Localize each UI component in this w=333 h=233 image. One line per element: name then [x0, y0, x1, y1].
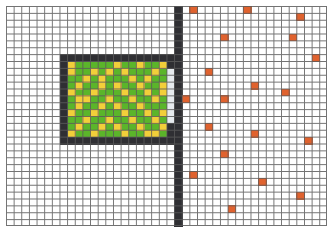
food-item [251, 82, 260, 90]
food-item [289, 34, 298, 42]
food-item [182, 95, 191, 103]
food-item [258, 178, 267, 186]
food-item [228, 205, 237, 213]
food-item [296, 192, 305, 200]
food-item [189, 171, 198, 179]
food-item [296, 13, 305, 21]
food-item [220, 150, 229, 158]
food-item [251, 130, 260, 138]
food-item [304, 137, 313, 145]
food-items-layer [6, 6, 327, 226]
food-item [205, 68, 214, 76]
food-item [281, 89, 290, 97]
simulation-board [6, 6, 327, 226]
food-item [189, 6, 198, 14]
food-item [243, 6, 252, 14]
food-item [220, 95, 229, 103]
food-item [220, 34, 229, 42]
food-item [312, 54, 321, 62]
food-item [205, 123, 214, 131]
